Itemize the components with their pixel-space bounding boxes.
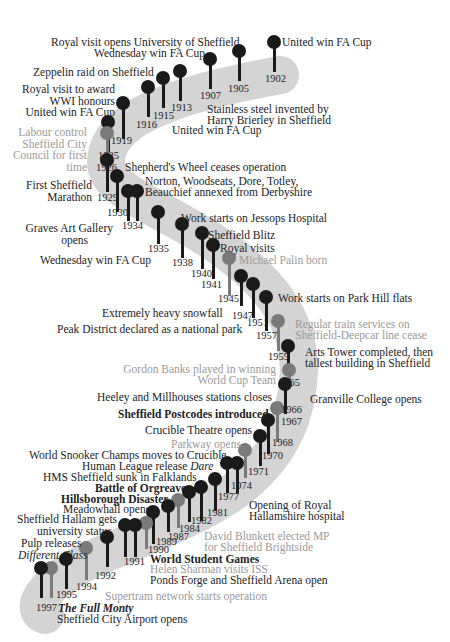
year-1992: 1992 [95, 571, 116, 582]
year-1929: 1929 [97, 193, 118, 204]
year-1966: 1966 [281, 405, 302, 416]
event-1991-ponds-forge: Ponds Forge and Sheffield Arena open [150, 574, 327, 587]
event-1940: Sheffield Blitz [208, 229, 275, 242]
event-1995-line2: Different Class [18, 549, 88, 562]
event-1951: Peak District declared as a national par… [57, 323, 242, 336]
year-1913: 1913 [171, 103, 192, 114]
year-1938: 1938 [172, 258, 193, 269]
year-1916: 1916 [136, 120, 157, 131]
event-1915: United win FA Cup [172, 124, 262, 137]
year-1930: 1930 [107, 208, 128, 219]
event-1967-heeley: Heeley and Millhouses stations closes [97, 391, 272, 404]
year-1945: 1945 [218, 294, 239, 305]
year-1968: 1968 [272, 438, 293, 449]
year-1925: 1925 [98, 151, 119, 162]
year-1970: 1970 [262, 451, 283, 462]
year-1941: 1941 [201, 280, 222, 291]
event-marathon-line2: Marathon [47, 191, 92, 204]
year-1994: 1994 [76, 582, 97, 593]
year-1926: 1926 [96, 163, 117, 174]
year-1934: 1934 [122, 221, 143, 232]
year-1902: 1902 [265, 74, 286, 85]
event-1926-labour-line4: time [67, 161, 87, 174]
event-1934-line2: opens [61, 234, 88, 247]
event-1966-line2: World Cup Team [197, 374, 276, 387]
event-1907: Wednesday win FA Cup [94, 47, 205, 60]
year-1959: 1959 [268, 352, 289, 363]
event-1916: Zeppelin raid on Sheffield [33, 66, 154, 79]
year-1951: 1951 [247, 318, 268, 329]
year-1977: 1977 [218, 492, 239, 503]
album-title-different-class: Different Class [18, 549, 88, 561]
year-1967: 1967 [281, 417, 302, 428]
event-1997-airport: Sheffield City Airport opens [57, 613, 187, 626]
year-1974: 1974 [231, 481, 252, 492]
event-1930-line2: Beauchief annexed from Derbyshire [145, 186, 312, 199]
year-1907: 1907 [200, 91, 221, 102]
year-1919: 1919 [111, 136, 132, 147]
year-1905: 1905 [228, 84, 249, 95]
year-1965: 1965 [279, 378, 300, 389]
event-1967-granville: Granville College opens [310, 393, 422, 406]
event-1971-crucible: Crucible Theatre opens [145, 424, 252, 437]
year-1991: 1991 [124, 557, 145, 568]
year-1940: 1940 [191, 269, 212, 280]
event-1943: Michael Palin born [239, 254, 327, 267]
year-1995: 1995 [56, 590, 77, 601]
event-1935-wednesday: Wednesday win FA Cup [40, 254, 151, 267]
event-1929: Shepherd's Wheel ceases operation [125, 161, 286, 174]
year-1935: 1935 [148, 244, 169, 255]
year-1957: 1957 [256, 331, 277, 342]
event-1938: Work starts on Jessops Hospital [181, 212, 327, 225]
year-1997: 1997 [36, 603, 57, 614]
event-1925: United win FA Cup [25, 106, 115, 119]
event-1968: Sheffield Postcodes introduced [118, 408, 269, 421]
event-1947: Extremely heavy snowfall [102, 307, 223, 320]
event-1902: United win FA Cup [282, 36, 372, 49]
event-1965-line2: tallest building in Sheffield [305, 357, 430, 370]
event-1978-line2: Hallamshire hospital [249, 510, 345, 523]
event-1957: Work starts on Park Hill flats [278, 292, 412, 305]
year-1971: 1971 [248, 467, 269, 478]
event-1959-line2: Sheffield-Deepcar line cease [295, 329, 427, 342]
